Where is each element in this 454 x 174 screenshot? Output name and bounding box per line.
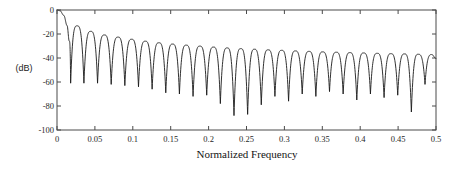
plot-background <box>57 10 436 130</box>
x-axis-label: Normalized Frequency <box>57 148 437 160</box>
y-axis-label: (dB) <box>4 63 44 73</box>
y-tick-label: -40 <box>8 53 54 63</box>
y-tick-label: -20 <box>8 29 54 39</box>
y-tick-label: -80 <box>8 101 54 111</box>
y-tick-label: -60 <box>8 77 54 87</box>
y-tick-label: 0 <box>8 5 54 15</box>
chart-figure: 0-20-40-60-80-100 00.050.10.150.20.250.3… <box>0 0 454 174</box>
x-tick-label: 0.5 <box>413 134 454 144</box>
